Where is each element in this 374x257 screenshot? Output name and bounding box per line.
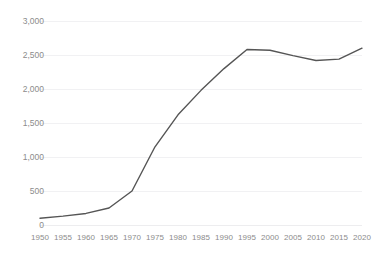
series-layer: [40, 21, 362, 225]
y-axis-tick-label: 2,500: [0, 51, 44, 59]
y-axis-tick-label: 1,000: [0, 153, 44, 161]
y-axis-tick-label: 1,500: [0, 119, 44, 127]
y-axis-tick-label: 3,000: [0, 17, 44, 25]
gridline: [40, 225, 362, 226]
y-axis-tick-label: 0: [0, 221, 44, 229]
x-axis-tick-label: 2020: [342, 233, 374, 242]
data-line-series-0: [40, 48, 362, 218]
line-chart: 3,0002,5002,0001,5001,0005000 1950195519…: [0, 0, 374, 257]
y-axis-tick-label: 500: [0, 187, 44, 195]
plot-area: 3,0002,5002,0001,5001,0005000 1950195519…: [40, 21, 362, 225]
y-axis-tick-label: 2,000: [0, 85, 44, 93]
